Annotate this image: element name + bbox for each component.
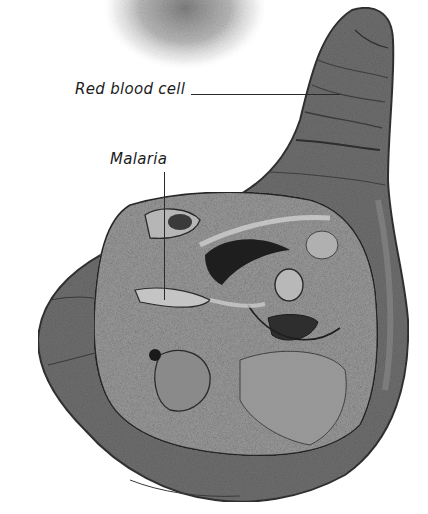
micrograph-image: [0, 0, 428, 514]
label-malaria: Malaria: [110, 150, 167, 168]
leader-line-malaria: [164, 172, 165, 300]
micrograph-figure: Red blood cell Malaria: [0, 0, 428, 514]
malaria-parasite: [94, 192, 377, 455]
label-red-blood-cell: Red blood cell: [75, 80, 185, 98]
leader-line-red-blood-cell: [191, 94, 340, 95]
blurred-particle: [103, 0, 267, 70]
